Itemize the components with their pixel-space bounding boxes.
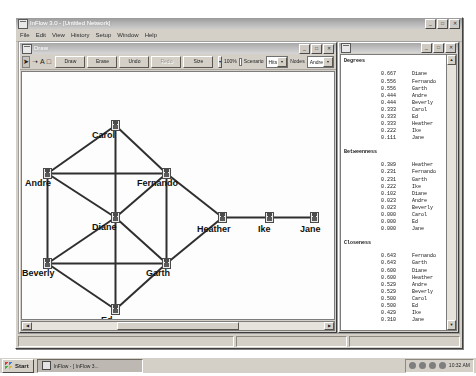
report-value: 0.023 <box>344 198 396 205</box>
clock[interactable]: 10:32 AM <box>449 361 470 370</box>
draw-maximize-button[interactable]: □ <box>311 44 322 54</box>
undo-button[interactable]: Undo <box>119 56 149 68</box>
report-value: 0.111 <box>344 135 396 142</box>
scroll-right-button[interactable]: ▶ <box>324 322 334 330</box>
draw-button[interactable]: Draw <box>55 56 85 68</box>
hscroll-thumb[interactable] <box>117 322 239 330</box>
zoom-stepper[interactable]: ▾ <box>218 56 222 68</box>
menu-item-file[interactable]: File <box>20 32 30 39</box>
draw-window-icon <box>22 44 32 54</box>
person-icon <box>164 259 169 267</box>
report-value: 0.643 <box>344 253 396 260</box>
tray-icon-1[interactable] <box>409 362 416 369</box>
report-section-title: Degrees <box>344 57 444 65</box>
draw-window-titlebar[interactable]: Draw _ □ ✕ <box>20 43 336 54</box>
mdi-client-area: Draw _ □ ✕ ➤ ➝ A □ Draw Erase Undo <box>18 41 460 334</box>
report-value: 0.333 <box>344 121 396 128</box>
draw-window-buttons: _ □ ✕ <box>299 44 335 54</box>
tray-icon-2[interactable] <box>419 362 426 369</box>
windows-flag-icon <box>5 362 13 370</box>
chevron-down-icon[interactable]: ▾ <box>323 57 333 67</box>
draw-close-button[interactable]: ✕ <box>323 44 334 54</box>
network-node-label-ed: Ed <box>101 315 113 320</box>
report-window-titlebar[interactable]: _ □ ✕ <box>339 43 458 53</box>
report-value: 0.500 <box>344 303 396 310</box>
report-value: 0.023 <box>344 205 396 212</box>
menu-item-help[interactable]: Help <box>145 32 157 39</box>
scenario-label: Scenario <box>244 58 264 65</box>
menu-item-edit[interactable]: Edit <box>36 32 46 39</box>
menu-item-window[interactable]: Window <box>117 32 138 39</box>
scenario-select[interactable]: Hits ▾ <box>266 56 289 68</box>
draw-horizontal-scrollbar[interactable]: ◀ ▶ <box>21 321 335 331</box>
maximize-button[interactable]: □ <box>437 19 448 29</box>
report-row: 0.231Garth <box>344 177 444 184</box>
report-vertical-scrollbar[interactable]: ▲ ▼ <box>446 55 456 330</box>
shape-icon[interactable]: □ <box>47 57 51 67</box>
report-name: Garth <box>396 177 427 184</box>
hscroll-track[interactable] <box>32 322 117 330</box>
report-name: Fernando <box>396 253 436 260</box>
report-value: 0.000 <box>344 212 396 219</box>
taskbar-item-label: InFlow - [ InFlow 3... <box>54 361 99 371</box>
scroll-down-button[interactable]: ▼ <box>447 320 456 330</box>
vscroll-track[interactable] <box>447 65 456 320</box>
scroll-left-button[interactable]: ◀ <box>22 322 32 330</box>
scenario-checkbox[interactable] <box>239 58 242 66</box>
chevron-down-icon[interactable]: ▾ <box>277 57 287 67</box>
network-node-label-garth: Garth <box>146 268 170 278</box>
report-maximize-button[interactable]: □ <box>433 43 444 53</box>
lasso-icon[interactable]: ➝ <box>32 57 38 67</box>
report-name: Jane <box>396 135 424 142</box>
report-close-button[interactable]: ✕ <box>445 43 456 53</box>
person-icon <box>267 213 272 221</box>
report-name: Ike <box>396 128 421 135</box>
text-icon[interactable]: A <box>40 57 45 67</box>
report-name: Jane <box>396 317 424 324</box>
report-name: Heather <box>396 121 433 128</box>
menu-item-view[interactable]: View <box>52 32 65 39</box>
minimize-button[interactable]: _ <box>425 19 436 29</box>
report-name: Andre <box>396 93 427 100</box>
tray-icon-3[interactable] <box>429 362 436 369</box>
report-value: 0.222 <box>344 184 396 191</box>
report-row: 0.023Beverly <box>344 205 444 212</box>
draw-window-title: Draw <box>34 45 299 52</box>
report-minimize-button[interactable]: _ <box>421 43 432 53</box>
network-canvas[interactable]: CarolAndreFernandoDianeBeverlyGarthEdHea… <box>21 71 335 320</box>
network-node-ike[interactable] <box>265 212 274 223</box>
network-node-label-diane: Diane <box>92 222 117 232</box>
nodes-select[interactable]: Andre ▾ <box>307 56 334 68</box>
close-button[interactable]: ✕ <box>449 19 460 29</box>
network-node-label-beverly: Beverly <box>22 268 55 278</box>
menu-item-history[interactable]: History <box>71 32 90 39</box>
menu-item-setup[interactable]: Setup <box>96 32 112 39</box>
start-button[interactable]: Start <box>2 359 34 373</box>
report-row: 0.600Heather <box>344 275 444 282</box>
status-cell-1 <box>18 336 234 347</box>
report-name: Fernando <box>396 79 436 86</box>
pointer-icon[interactable]: ➤ <box>22 56 30 68</box>
hscroll-track[interactable] <box>239 322 324 330</box>
report-row: 0.600Diane <box>344 268 444 275</box>
report-row: 0.643Fernando <box>344 253 444 260</box>
app-titlebar[interactable]: InFlow 3.0 - [Untitled Network] _ □ ✕ <box>16 18 462 29</box>
report-row: 0.529Beverly <box>344 289 444 296</box>
start-label: Start <box>15 361 29 371</box>
tray-icon-4[interactable] <box>439 362 446 369</box>
network-node-jane[interactable] <box>310 212 319 223</box>
scroll-up-button[interactable]: ▲ <box>447 55 456 65</box>
draw-minimize-button[interactable]: _ <box>299 44 310 54</box>
person-icon <box>220 213 225 221</box>
report-section-title: Betweenness <box>344 148 444 156</box>
size-button[interactable]: Size <box>183 56 213 68</box>
taskbar-item-inflow[interactable]: InFlow - [ InFlow 3... <box>37 359 143 373</box>
report-row: 0.111Jane <box>344 135 444 142</box>
erase-button[interactable]: Erase <box>87 56 117 68</box>
report-row: 0.310Jane <box>344 317 444 324</box>
report-row: 0.000Carol <box>344 212 444 219</box>
system-tray: 10:32 AM <box>405 359 474 373</box>
network-node-ed[interactable] <box>111 304 120 315</box>
report-name: Heather <box>396 162 433 169</box>
network-node-heather[interactable] <box>218 212 227 223</box>
